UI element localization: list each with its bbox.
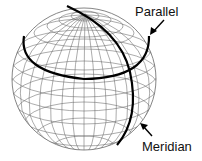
globe-diagram <box>0 0 202 161</box>
globe-svg <box>0 0 202 161</box>
parallel-label: Parallel <box>135 5 178 18</box>
parallel-arrow <box>150 20 164 35</box>
meridian-label: Meridian <box>142 140 192 153</box>
meridian-arrow <box>140 123 152 136</box>
